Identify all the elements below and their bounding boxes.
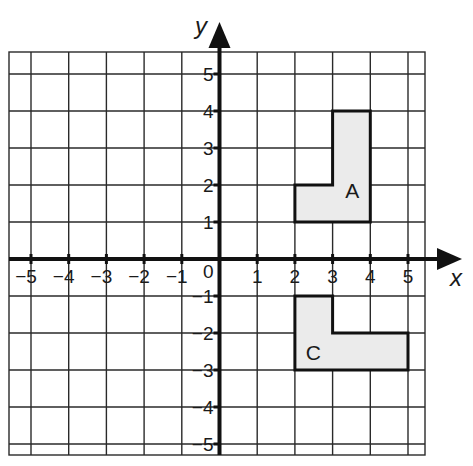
x-tick-label: −4: [53, 266, 75, 287]
x-tick-label: 2: [290, 266, 301, 287]
x-tick-label: −3: [91, 266, 113, 287]
y-tick-label: 3: [203, 138, 214, 159]
y-tick-label: 4: [203, 101, 214, 122]
x-tick-label: 5: [403, 266, 414, 287]
shape-a-label: A: [345, 179, 359, 202]
x-tick-label: −2: [128, 266, 150, 287]
y-tick-label: 1: [203, 212, 214, 233]
x-tick-label: −5: [15, 266, 37, 287]
y-tick-label: 2: [203, 175, 214, 196]
x-axis-title: x: [449, 264, 463, 291]
axes-layer: [9, 22, 462, 455]
y-axis-arrow-icon: [209, 22, 231, 48]
x-tick-label: −1: [166, 266, 188, 287]
shapes-layer: [295, 111, 408, 370]
x-tick-label: 1: [252, 266, 263, 287]
y-tick-label: −5: [192, 434, 214, 455]
origin-label: 0: [203, 261, 214, 282]
y-tick-label: −3: [192, 360, 214, 381]
y-tick-label: −2: [192, 323, 214, 344]
y-tick-label: 5: [203, 64, 214, 85]
shape-c-label: C: [306, 341, 321, 364]
coordinate-grid-diagram: −5−4−3−2−11234554321−1−2−3−4−5 x y 0 A C: [0, 0, 473, 466]
y-tick-label: −4: [192, 397, 214, 418]
y-axis-title: y: [193, 12, 209, 39]
x-tick-label: 3: [327, 266, 338, 287]
x-tick-label: 4: [365, 266, 376, 287]
y-tick-label: −1: [192, 286, 214, 307]
shape-a: [295, 111, 370, 222]
grid-canvas: −5−4−3−2−11234554321−1−2−3−4−5 x y 0 A C: [0, 0, 473, 466]
